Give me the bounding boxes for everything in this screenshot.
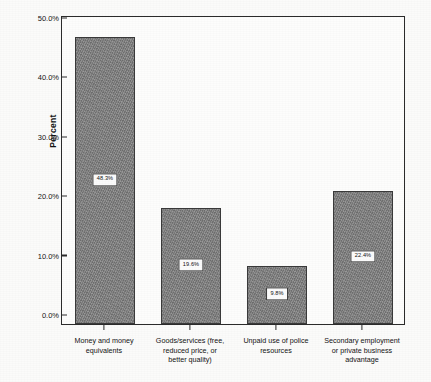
x-axis-category-label: Goods/services (free, reduced price, or … [141,336,239,365]
y-axis-tick: 0.0% [42,311,62,320]
y-axis-tick-mark [62,255,67,256]
plot-area: 0.0%10.0%20.0%30.0%40.0%50.0% 48.3%19.6%… [61,16,405,325]
y-axis-tick: 50.0% [38,13,62,22]
bar-value-label: 48.3% [92,173,117,186]
x-axis-category-label: Money and money equivalents [55,336,153,355]
chart-page: Percent 0.0%10.0%20.0%30.0%40.0%50.0% 48… [0,0,431,382]
y-axis-tick-mark [62,196,67,197]
bar-value-label: 22.4% [350,250,375,263]
y-axis-tick: 10.0% [38,251,62,260]
y-axis-tick-label: 40.0% [38,73,62,82]
bar-value-label: 9.8% [266,288,288,301]
bar-value-label: 19.6% [178,258,203,271]
x-axis-category-label: Secondary employment or private business… [313,336,411,365]
y-axis-tick: 40.0% [38,73,62,82]
x-axis-tick-mark [103,325,104,330]
y-axis-tick-mark [62,314,67,315]
bar: 9.8% [247,266,307,324]
x-axis-tick-mark [275,325,276,330]
y-axis-tick-label: 20.0% [38,192,62,201]
bar: 22.4% [333,191,393,324]
y-axis-tick-mark [62,17,67,18]
y-axis-tick-label: 50.0% [38,13,62,22]
y-axis-tick-label: 0.0% [42,311,62,320]
y-axis-tick: 20.0% [38,192,62,201]
y-axis-tick-label: 10.0% [38,251,62,260]
bar: 48.3% [75,37,135,324]
x-axis-category-label: Unpaid use of police resources [227,336,325,355]
x-axis-tick-mark [361,325,362,330]
y-axis-tick-label: 30.0% [38,132,62,141]
y-axis-tick-mark [62,77,67,78]
y-axis-title: Percent [48,86,58,176]
y-axis-tick: 30.0% [38,132,62,141]
y-axis-tick-mark [62,136,67,137]
x-axis-tick-mark [189,325,190,330]
bar: 19.6% [161,208,221,324]
